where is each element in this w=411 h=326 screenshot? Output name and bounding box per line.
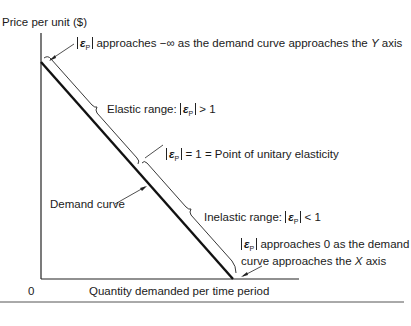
annotation-unitary: εP = 1 = Point of unitary elasticity [166, 148, 339, 165]
annotation-top: εP approaches −∞ as the demand curve app… [77, 37, 402, 54]
annotation-demand-curve: Demand curve [50, 198, 125, 211]
annotation-bottom: εP approaches 0 as the demand curve appr… [241, 238, 409, 268]
unitary-leader [145, 145, 163, 158]
demand-curve [41, 62, 233, 279]
origin-label: 0 [28, 285, 34, 298]
annotation-elastic: Elastic range: εP > 1 [107, 103, 216, 120]
annotation-inelastic: Inelastic range: εP < 1 [204, 211, 321, 228]
y-axis-label: Price per unit ($) [2, 16, 87, 29]
x-axis-label: Quantity demanded per time period [89, 285, 269, 298]
arrowhead [241, 272, 248, 277]
arrowhead [140, 186, 147, 191]
